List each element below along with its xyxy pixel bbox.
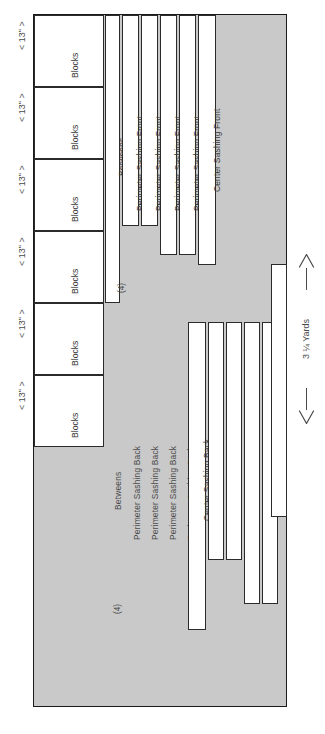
dimension-label-6: < 13" > (17, 381, 27, 410)
strip-blank-back (208, 322, 224, 560)
fabric-cutting-layout-diagram: < 13" > < 13" > < 13" > < 13" > < 13" > … (0, 0, 325, 734)
block-label: Blocks (70, 197, 80, 222)
dimension-tick-top (306, 268, 307, 290)
block-piece: Blocks (34, 87, 104, 159)
left-dimension-column: < 13" > (0, 86, 33, 158)
block-label: Blocks (70, 53, 80, 78)
block-piece: Blocks (34, 159, 104, 231)
yardage-label: 3 ¼ Yards (301, 319, 311, 359)
strip-blank-back (226, 322, 242, 560)
left-dimension-column: < 13" > (0, 158, 33, 230)
dimension-label-3: < 13" > (17, 165, 27, 194)
block-label: Blocks (70, 413, 80, 438)
strip-perimeter-sashing-front: Perimeter Sashing Front (160, 15, 177, 255)
block-piece: Blocks (34, 231, 104, 303)
dimension-label-1: < 13" > (17, 21, 27, 50)
left-dimension-column: < 13" > (0, 374, 33, 446)
strip-center-sashing-front: Center Sashing Front (198, 15, 216, 265)
dimension-label-2: < 13" > (17, 93, 27, 122)
dimension-label-4: < 13" > (17, 237, 27, 266)
strip-quantity-badge: (4) (113, 604, 122, 614)
left-dimension-column: < 13" > (0, 230, 33, 302)
block-piece: Blocks (34, 375, 104, 447)
strip-perimeter-sashing-front: Perimeter Sashing Front (179, 15, 196, 255)
block-label: Blocks (70, 341, 80, 366)
block-label: Blocks (70, 269, 80, 294)
arrow-up-icon (298, 254, 315, 268)
block-label: Blocks (70, 125, 80, 150)
strip-betweens-front: Betweens (4) (105, 15, 120, 303)
dimension-label-5: < 13" > (17, 309, 27, 338)
strip-blank-back (244, 322, 260, 604)
strip-center-sashing-back: Center Sashing Back (188, 322, 206, 630)
dimension-tick-bottom (306, 388, 307, 410)
block-piece: Blocks (34, 15, 104, 87)
strip-quantity-badge: (4) (117, 283, 126, 293)
strip-perimeter-sashing-front: Perimeter Sashing Front (141, 15, 158, 226)
left-dimension-column: < 13" > (0, 302, 33, 374)
strip-perimeter-sashing-front: Perimeter Sashing Front (122, 15, 139, 226)
block-piece: Blocks (34, 303, 104, 375)
yardage-dimension: 3 ¼ Yards (289, 254, 325, 424)
left-dimension-column: < 13" > (0, 14, 33, 86)
arrow-down-icon (298, 410, 315, 424)
strip-selvage-right (271, 264, 287, 517)
